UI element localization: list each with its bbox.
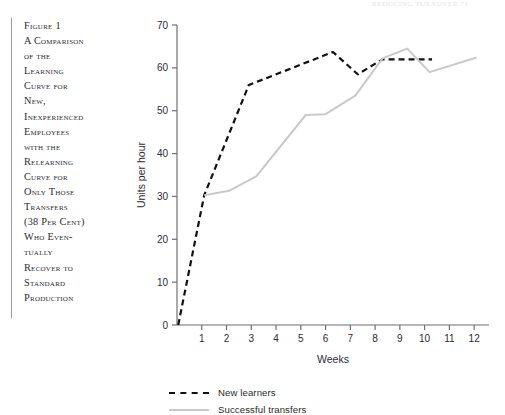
x-axis: 123456789101112 bbox=[177, 325, 489, 344]
legend-item-successful-transfers: Successful transfers bbox=[169, 401, 469, 415]
chart-series-group bbox=[178, 49, 476, 325]
svg-text:20: 20 bbox=[157, 234, 169, 245]
svg-text:2: 2 bbox=[224, 333, 230, 344]
legend-label-new-learners: New learners bbox=[218, 387, 276, 398]
svg-text:Weeks: Weeks bbox=[317, 353, 349, 365]
svg-text:5: 5 bbox=[298, 333, 304, 344]
svg-text:12: 12 bbox=[469, 333, 481, 344]
svg-text:10: 10 bbox=[157, 277, 169, 288]
legend-swatch-dashed-icon bbox=[169, 388, 209, 398]
figure-caption-text: Figure 1 A Comparison of the Learning Cu… bbox=[24, 18, 133, 305]
svg-text:7: 7 bbox=[348, 333, 354, 344]
legend-swatch-solid-icon bbox=[169, 405, 209, 415]
svg-text:1: 1 bbox=[199, 333, 205, 344]
svg-text:60: 60 bbox=[157, 62, 169, 73]
svg-text:40: 40 bbox=[157, 148, 169, 159]
chart-legend: New learners Successful transfers bbox=[169, 384, 469, 415]
svg-text:50: 50 bbox=[157, 105, 169, 116]
svg-text:3: 3 bbox=[249, 333, 255, 344]
svg-text:70: 70 bbox=[157, 20, 169, 31]
chart-figure: 010203040506070 123456789101112 WeeksUni… bbox=[133, 8, 505, 415]
line-chart-canvas: 010203040506070 123456789101112 WeeksUni… bbox=[133, 8, 505, 415]
figure-caption-block: Figure 1 A Comparison of the Learning Cu… bbox=[11, 18, 133, 318]
svg-text:9: 9 bbox=[397, 333, 403, 344]
svg-text:6: 6 bbox=[323, 333, 329, 344]
legend-label-successful-transfers: Successful transfers bbox=[218, 404, 306, 415]
svg-text:4: 4 bbox=[273, 333, 279, 344]
svg-text:0: 0 bbox=[162, 320, 168, 331]
axis-titles: WeeksUnits per hour bbox=[135, 142, 349, 365]
legend-item-new-learners: New learners bbox=[169, 384, 469, 401]
svg-text:8: 8 bbox=[372, 333, 378, 344]
svg-text:Units per hour: Units per hour bbox=[135, 142, 147, 208]
y-axis: 010203040506070 bbox=[157, 20, 177, 331]
svg-text:10: 10 bbox=[419, 333, 431, 344]
svg-text:11: 11 bbox=[444, 333, 455, 344]
svg-text:30: 30 bbox=[157, 191, 169, 202]
